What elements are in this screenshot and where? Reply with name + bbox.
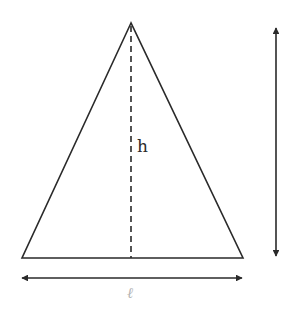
height-label: h [137, 136, 148, 156]
base-length-label: ℓ [127, 284, 133, 302]
triangle-shape [22, 23, 243, 258]
triangle-diagram: h ℓ [0, 0, 296, 313]
